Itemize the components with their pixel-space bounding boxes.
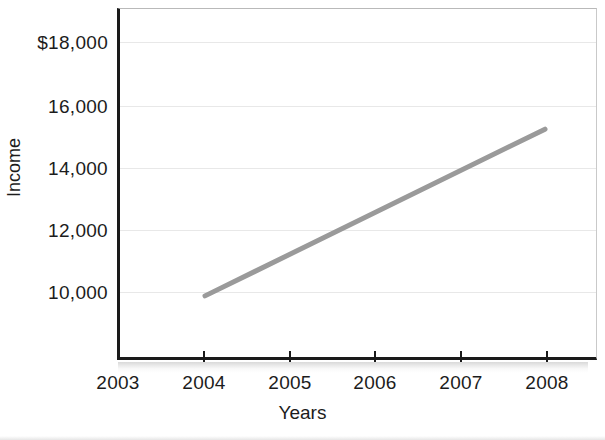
scan-edge-artifact [0,436,605,440]
y-axis-tick-label: 12,000 [48,220,108,242]
data-series-line [120,9,596,357]
y-axis-tick-label: 14,000 [48,158,108,180]
x-axis-tick-label: 2008 [525,372,568,394]
y-axis-tick-label: 16,000 [48,96,108,118]
x-axis-tick-mark [460,351,462,362]
income-trend-line [205,129,545,296]
plot-area [117,8,597,360]
x-axis-tick-label: 2004 [182,372,225,394]
line-chart: Income $18,000 16,000 14,000 12,000 10,0… [0,0,605,440]
x-axis-tick-mark [289,351,291,362]
x-axis-tick-label: 2006 [353,372,396,394]
y-axis-tick-label: $18,000 [37,32,108,54]
x-axis-tick-mark [374,351,376,362]
x-axis-tick-mark [546,351,548,362]
x-axis-tick-label: 2003 [96,372,139,394]
x-axis-tick-mark [203,351,205,362]
y-axis-tick-label: 10,000 [48,282,108,304]
y-axis-title: Income [4,138,25,197]
x-axis-title: Years [0,402,605,424]
x-axis-tick-label: 2007 [439,372,482,394]
x-axis-tick-label: 2005 [268,372,311,394]
